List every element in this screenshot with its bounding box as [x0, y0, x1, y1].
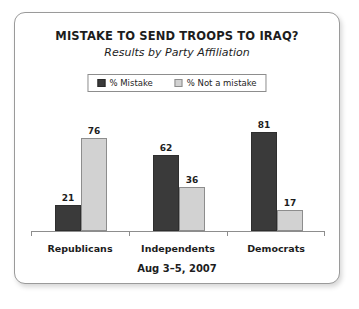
chart-card: MISTAKE TO SEND TROOPS TO IRAQ? Results …: [14, 12, 340, 284]
axis-tick: [324, 231, 325, 236]
x-axis-label-republicans: Republicans: [31, 243, 129, 255]
legend-swatch-icon-mistake: [97, 79, 105, 87]
chart-footer-date: Aug 3–5, 2007: [15, 263, 339, 275]
bar-rect: [277, 210, 303, 231]
bar-rect: [179, 187, 205, 231]
legend-item-not-a-mistake: % Not a mistake: [175, 78, 257, 88]
bar-rect: [153, 155, 179, 231]
chart-title: MISTAKE TO SEND TROOPS TO IRAQ?: [15, 29, 339, 43]
legend-item-mistake: % Mistake: [97, 78, 152, 88]
bar-rect: [55, 205, 81, 231]
legend-label-mistake: % Mistake: [109, 78, 152, 88]
bar-value-democrats-mistake: 81: [258, 120, 271, 130]
chart-subtitle: Results by Party Affiliation: [15, 45, 339, 60]
x-axis-labels: Republicans Independents Democrats: [31, 243, 325, 257]
axis-tick: [129, 231, 130, 236]
bar-group-democrats: 81 17: [227, 109, 325, 231]
axis-tick: [227, 231, 228, 236]
title-block: MISTAKE TO SEND TROOPS TO IRAQ? Results …: [15, 29, 339, 60]
bar-republicans-mistake: 21: [55, 205, 81, 231]
bar-rect: [81, 138, 107, 231]
chart-legend: % Mistake % Not a mistake: [87, 74, 266, 92]
bar-group-republicans: 21 76: [31, 109, 129, 231]
bar-value-independents-not-a-mistake: 36: [186, 175, 199, 185]
bar-democrats-mistake: 81: [251, 132, 277, 231]
legend-swatch-icon-not-a-mistake: [175, 79, 183, 87]
bar-independents-mistake: 62: [153, 155, 179, 231]
bar-rect: [251, 132, 277, 231]
bar-republicans-not-a-mistake: 76: [81, 138, 107, 231]
bar-value-independents-mistake: 62: [160, 143, 173, 153]
axis-tick: [31, 231, 32, 236]
plot-area: 21 76 62 36 81 17: [31, 109, 325, 231]
x-axis-label-democrats: Democrats: [227, 243, 325, 255]
x-axis-label-independents: Independents: [129, 243, 227, 255]
bar-independents-not-a-mistake: 36: [179, 187, 205, 231]
legend-label-not-a-mistake: % Not a mistake: [187, 78, 257, 88]
bar-value-republicans-mistake: 21: [62, 193, 75, 203]
bar-group-independents: 62 36: [129, 109, 227, 231]
bar-value-democrats-not-a-mistake: 17: [284, 198, 297, 208]
bar-democrats-not-a-mistake: 17: [277, 210, 303, 231]
bar-value-republicans-not-a-mistake: 76: [88, 126, 101, 136]
x-axis: [31, 231, 325, 237]
x-axis-line: [31, 231, 325, 232]
